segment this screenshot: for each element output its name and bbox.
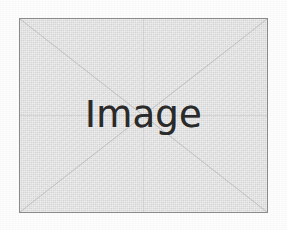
placeholder-caption: Image [20,19,267,212]
image-placeholder[interactable]: Image [19,18,268,213]
page-background: Image [0,0,287,230]
placeholder-caption-text: Image [85,96,202,133]
